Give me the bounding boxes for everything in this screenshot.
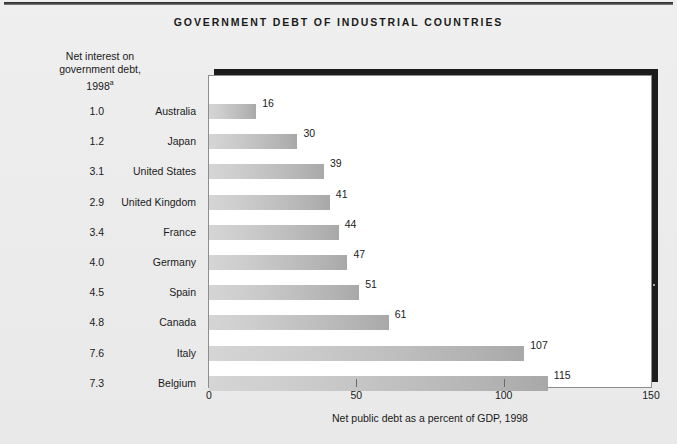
bar — [209, 104, 256, 119]
country-label: United Kingdom — [104, 187, 196, 218]
left-column-header-line2: government debt, — [30, 63, 170, 76]
bar — [209, 225, 339, 240]
footnote-marker: a — [110, 79, 114, 86]
left-column-header-year: 1998 — [86, 80, 109, 92]
left-column-header: Net interest on government debt, 1998a — [30, 50, 170, 93]
x-axis-tick — [504, 379, 505, 387]
chart-page: GOVERNMENT DEBT OF INDUSTRIAL COUNTRIES … — [0, 0, 677, 444]
x-axis-tick-label: 0 — [206, 389, 212, 401]
bar — [209, 255, 347, 270]
bar-container — [209, 255, 347, 270]
bar-value-label: 115 — [548, 368, 571, 383]
country-label: Belgium — [104, 368, 196, 399]
bar-value-label: 51 — [359, 277, 377, 292]
country-label: Germany — [104, 247, 196, 278]
bar-container — [209, 346, 524, 361]
bar-container — [209, 134, 297, 149]
x-axis-tick-label: 100 — [495, 389, 513, 401]
bar-value-label: 41 — [330, 187, 348, 202]
country-label: Australia — [104, 96, 196, 127]
chart-row: 3.1United States39 — [0, 156, 677, 187]
country-label: United States — [104, 156, 196, 187]
scan-speck — [653, 284, 655, 286]
country-label: Spain — [104, 277, 196, 308]
net-interest-value: 4.0 — [52, 247, 104, 278]
chart-row: 4.5Spain51 — [0, 277, 677, 308]
bar-container — [209, 225, 339, 240]
country-label: Italy — [104, 338, 196, 369]
bar — [209, 315, 389, 330]
bar-container — [209, 164, 324, 179]
country-label: France — [104, 217, 196, 248]
page-title: GOVERNMENT DEBT OF INDUSTRIAL COUNTRIES — [0, 16, 677, 28]
bar-container — [209, 195, 330, 210]
bar — [209, 346, 524, 361]
net-interest-value: 7.3 — [52, 368, 104, 399]
net-interest-value: 2.9 — [52, 187, 104, 218]
bar — [209, 164, 324, 179]
left-column-header-line1: Net interest on — [30, 50, 170, 63]
x-axis-tick — [356, 379, 357, 387]
x-axis-tick-label: 50 — [350, 389, 362, 401]
bar-value-label: 107 — [524, 338, 548, 353]
bar — [209, 285, 359, 300]
net-interest-value: 1.2 — [52, 126, 104, 157]
bar-container — [209, 285, 359, 300]
net-interest-value: 3.1 — [52, 156, 104, 187]
bar-container — [209, 104, 256, 119]
bar-value-label: 44 — [339, 217, 357, 232]
bar-value-label: 39 — [324, 156, 342, 171]
bar-value-label: 47 — [347, 247, 365, 262]
bar-value-label: 16 — [256, 96, 274, 111]
net-interest-value: 1.0 — [52, 96, 104, 127]
chart-row: 1.2Japan30 — [0, 126, 677, 157]
net-interest-value: 4.5 — [52, 277, 104, 308]
net-interest-value: 3.4 — [52, 217, 104, 248]
chart-row: 2.9United Kingdom41 — [0, 187, 677, 218]
bar — [209, 195, 330, 210]
x-axis-tick-label: 150 — [642, 389, 660, 401]
chart-row: 7.6Italy107 — [0, 338, 677, 369]
left-column-header-line3: 1998a — [30, 76, 170, 93]
net-interest-value: 4.8 — [52, 307, 104, 338]
bar-value-label: 61 — [389, 307, 407, 322]
page-top-rule — [4, 2, 673, 5]
chart-row: 4.0Germany47 — [0, 247, 677, 278]
chart-row: 1.0Australia16 — [0, 96, 677, 127]
bar-container — [209, 315, 389, 330]
chart-row: 3.4France44 — [0, 217, 677, 248]
bar-value-label: 30 — [297, 126, 315, 141]
country-label: Japan — [104, 126, 196, 157]
country-label: Canada — [104, 307, 196, 338]
net-interest-value: 7.6 — [52, 338, 104, 369]
bar — [209, 134, 297, 149]
x-axis: 050100150 Net public debt as a percent o… — [208, 388, 652, 434]
x-axis-title: Net public debt as a percent of GDP, 199… — [208, 412, 652, 424]
chart-row: 4.8Canada61 — [0, 307, 677, 338]
